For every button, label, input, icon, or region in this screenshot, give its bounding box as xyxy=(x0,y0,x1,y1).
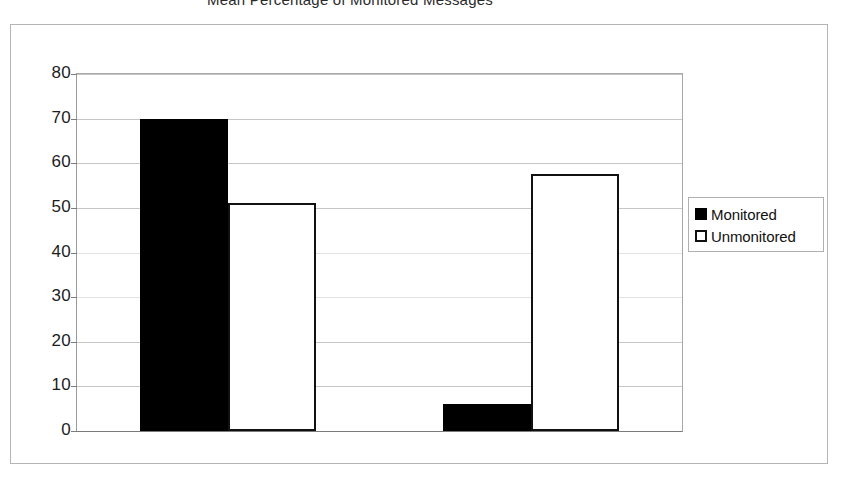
y-axis-tick xyxy=(71,208,77,209)
bar-monitored-conflictual-tone[interactable] xyxy=(443,404,531,431)
y-axis-tick xyxy=(71,74,77,75)
y-axis-label-group: 80706050403020100 xyxy=(15,49,71,454)
chart-legend: Monitored Unmonitored xyxy=(688,197,824,252)
hollow-square-icon xyxy=(695,230,707,242)
y-axis-tick-label: 0 xyxy=(31,420,71,440)
legend-item[interactable]: Unmonitored xyxy=(695,225,823,247)
bar-unmonitored-conflictual-tone[interactable] xyxy=(531,174,619,431)
gridline xyxy=(77,74,682,75)
y-axis-tick-label: 80 xyxy=(31,63,71,83)
chart-title: Mean Percentage of Monitored Messages xyxy=(0,0,700,8)
y-axis-tick xyxy=(71,163,77,164)
y-axis-tick-label: 70 xyxy=(31,108,71,128)
filled-square-icon xyxy=(695,208,707,220)
plot-area xyxy=(76,73,683,432)
y-axis-tick xyxy=(71,297,77,298)
legend-item-label: Monitored xyxy=(711,206,777,223)
legend-item-label: Unmonitored xyxy=(711,228,796,245)
y-axis-tick-label: 40 xyxy=(31,242,71,262)
y-axis-tick xyxy=(71,386,77,387)
chart-outer-frame: 80706050403020100 Personal ContentConfli… xyxy=(10,24,828,464)
y-axis-tick-label: 20 xyxy=(31,331,71,351)
y-axis-tick-label: 10 xyxy=(31,375,71,395)
bar-monitored-personal-content[interactable] xyxy=(140,119,228,431)
y-axis-tick xyxy=(71,342,77,343)
y-axis-tick-label: 30 xyxy=(31,286,71,306)
y-axis-tick-label: 60 xyxy=(31,152,71,172)
y-axis-tick xyxy=(71,253,77,254)
y-axis-tick-label: 50 xyxy=(31,197,71,217)
y-axis-tick xyxy=(71,119,77,120)
legend-item[interactable]: Monitored xyxy=(695,203,823,225)
bar-unmonitored-personal-content[interactable] xyxy=(228,203,316,431)
